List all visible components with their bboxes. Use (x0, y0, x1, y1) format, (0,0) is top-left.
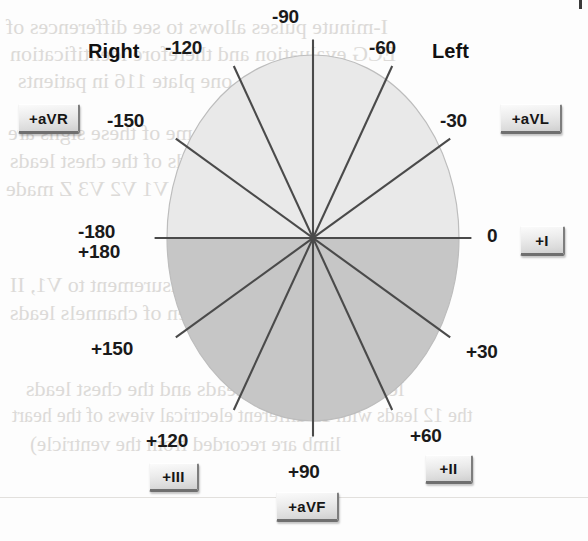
lead-I-button[interactable]: +I (520, 226, 565, 256)
degree-label-plus-minus-180-line1: -180 (78, 221, 115, 243)
axis-wheel (0, 0, 588, 541)
lead-III-button[interactable]: +III (149, 463, 199, 492)
degree-label-plus-150: +150 (91, 338, 133, 360)
degree-label-minus-90: -90 (272, 6, 299, 28)
scan-edge-marker (579, 0, 582, 9)
lead-aVL-button[interactable]: +aVL (500, 104, 562, 134)
degree-label-zero: 0 (487, 225, 497, 247)
lead-aVF-button[interactable]: +aVF (276, 492, 339, 522)
degree-label-minus-150: -150 (107, 110, 144, 132)
lead-II-button[interactable]: +II (425, 455, 473, 484)
degree-label-plus-minus-180-line2: +180 (78, 241, 120, 263)
hexaxial-reference-diagram: -90-60-300+30+60+90+120+150-180+180-150-… (0, 0, 588, 541)
degree-label-minus-60: -60 (369, 37, 396, 59)
degree-label-plus-60: +60 (410, 425, 442, 447)
lead-aVR-button[interactable]: +aVR (18, 104, 80, 134)
heading-right: Right (88, 40, 140, 63)
degree-label-plus-90: +90 (288, 461, 320, 483)
heading-left: Left (432, 40, 469, 63)
degree-label-plus-120: +120 (146, 430, 188, 452)
degree-label-plus-30: +30 (466, 341, 498, 363)
degree-label-minus-120: -120 (165, 37, 202, 59)
degree-label-minus-30: -30 (440, 110, 467, 132)
